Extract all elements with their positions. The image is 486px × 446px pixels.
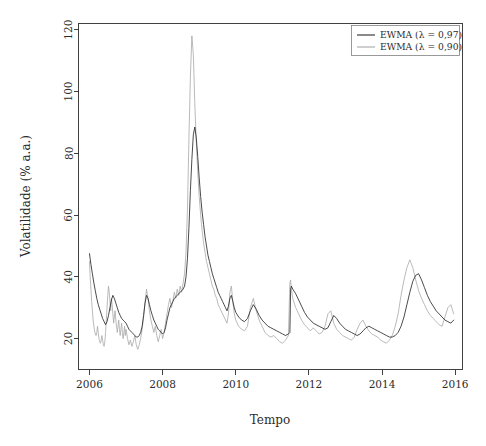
- y-tick-label-80: 80: [63, 147, 75, 160]
- y-axis-title: Volatilidade (% a.a.): [19, 135, 33, 258]
- y-tick-label-40: 40: [63, 270, 75, 283]
- x-tick-label-2006: 2006: [76, 378, 103, 390]
- y-tick-label-120: 120: [63, 20, 75, 40]
- y-tick-label-100: 100: [63, 81, 75, 101]
- y-tick-label-60: 60: [63, 208, 75, 221]
- x-tick-label-2016: 2016: [442, 378, 469, 390]
- x-tick-label-2008: 2008: [149, 378, 176, 390]
- volatility-chart-figure: 20406080100120 200620082010201220142016 …: [0, 0, 486, 446]
- x-tick-label-2012: 2012: [296, 378, 323, 390]
- chart-canvas: 20406080100120 200620082010201220142016 …: [0, 0, 486, 446]
- legend-label-ewma-097: EWMA (λ = 0,97): [380, 29, 462, 40]
- x-axis-title: Tempo: [250, 413, 290, 427]
- x-tick-label-2014: 2014: [369, 378, 396, 390]
- x-tick-label-2010: 2010: [222, 378, 249, 390]
- y-tick-label-20: 20: [63, 332, 75, 345]
- legend-label-ewma-090: EWMA (λ = 0,90): [380, 41, 462, 52]
- chart-legend: EWMA (λ = 0,97) EWMA (λ = 0,90): [352, 26, 463, 56]
